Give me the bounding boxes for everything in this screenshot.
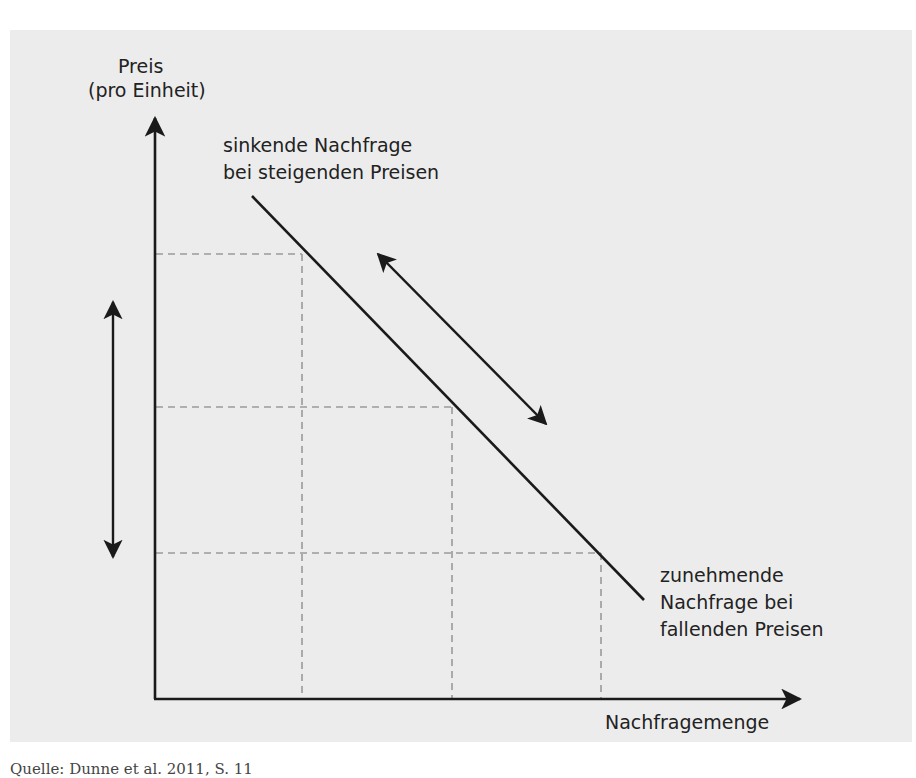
dashed-guides	[156, 254, 601, 699]
diagonal-double-arrow-icon	[378, 254, 546, 424]
annotation-bottom-line1: zunehmende	[660, 563, 784, 588]
demand-curve-line	[252, 196, 644, 600]
source-caption: Quelle: Dunne et al. 2011, S. 11	[10, 760, 253, 778]
y-axis-label-line1: Preis	[118, 54, 163, 79]
y-axis-label-line2: (pro Einheit)	[88, 78, 206, 103]
x-axis-label: Nachfragemenge	[605, 710, 769, 735]
annotation-bottom-line3: fallenden Preisen	[660, 617, 824, 642]
annotation-top-line2: bei steigenden Preisen	[223, 160, 439, 185]
annotation-top-line1: sinkende Nachfrage	[223, 133, 412, 158]
annotation-bottom-line2: Nachfrage bei	[660, 590, 793, 615]
